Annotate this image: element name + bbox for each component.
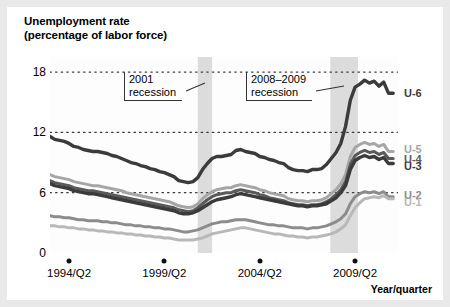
y-tick-label-18: 18 <box>24 65 46 79</box>
annotation-2001-line2: recession <box>129 86 176 99</box>
annotation-2008-2009-recession: 2008–2009 recession <box>246 72 312 101</box>
x-tick-dot-2009/Q2 <box>353 259 358 264</box>
annotation-2008-line1: 2008–2009 <box>251 73 306 86</box>
x-tick-label-2009/Q2: 2009/Q2 <box>333 267 377 279</box>
x-tick-dot-2004/Q2 <box>257 259 262 264</box>
y-tick-label-6: 6 <box>24 186 46 200</box>
annotation-2008-line2: recession <box>251 86 306 99</box>
series-label-U-3: U-3 <box>404 160 422 172</box>
x-tick-label-2004/Q2: 2004/Q2 <box>238 267 282 279</box>
x-tick-dot-1999/Q2 <box>162 259 167 264</box>
plot-svg <box>50 57 398 253</box>
x-tick-label-1994/Q2: 1994/Q2 <box>47 267 91 279</box>
y-tick-label-12: 12 <box>24 125 46 139</box>
annotation-2001-recession: 2001 recession <box>124 72 182 101</box>
series-label-U-1: U-1 <box>404 196 422 208</box>
y-axis: 061218 <box>20 0 46 307</box>
plot-area <box>50 57 398 253</box>
unemployment-rate-chart: Unemployment rate (percentage of labor f… <box>0 0 450 307</box>
y-tick-label-0: 0 <box>24 246 46 260</box>
x-axis-title: Year/quarter <box>371 283 432 295</box>
x-tick-label-1999/Q2: 1999/Q2 <box>142 267 186 279</box>
series-label-U-6: U-6 <box>404 87 422 99</box>
x-tick-dot-1994/Q2 <box>67 259 72 264</box>
annotation-2001-line1: 2001 <box>129 73 176 86</box>
